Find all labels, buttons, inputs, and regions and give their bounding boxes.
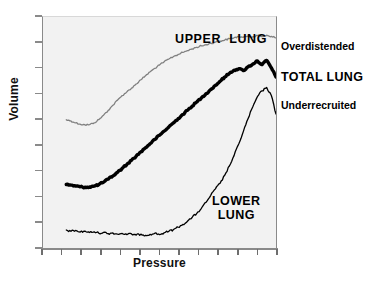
x-tick [100,249,102,255]
x-tick [120,249,122,255]
x-axis-label: Pressure [42,256,277,270]
lower-lung-label-line2: LUNG [218,208,255,222]
x-tick [61,249,63,255]
y-tick [35,15,42,17]
x-tick [257,249,259,255]
overdistended-label: Overdistended [281,40,355,52]
y-axis-label: Volume [7,49,21,149]
x-tick [217,249,219,255]
y-tick [35,196,42,198]
x-tick [276,249,278,255]
y-tick [35,93,42,95]
curve-upper-lung [66,35,276,125]
x-tick [198,249,200,255]
x-tick [41,249,43,255]
x-tick [159,249,161,255]
x-tick [80,249,82,255]
lower-lung-label-line1: LOWER [212,194,261,208]
lower-lung-label: LOWERLUNG [212,194,261,223]
y-tick [35,118,42,120]
x-tick [237,249,239,255]
y-tick [35,170,42,172]
curve-total-lung [66,60,276,187]
y-tick [35,144,42,146]
pressure-volume-chart: Volume Pressure UPPER LUNG LOWERLUNG Ove… [0,0,373,283]
total-lung-label: TOTAL LUNG [281,70,363,84]
y-tick [35,221,42,223]
x-tick [139,249,141,255]
underrecruited-label: Underrecruited [281,99,356,111]
y-tick [35,67,42,69]
y-tick [35,41,42,43]
x-tick [178,249,180,255]
upper-lung-label: UPPER LUNG [175,32,267,46]
